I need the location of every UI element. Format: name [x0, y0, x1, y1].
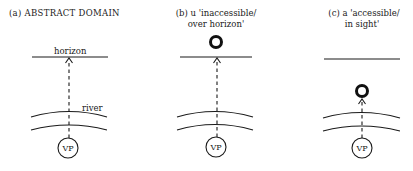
- figure-canvas: (a) ABSTRACT DOMAIN horizon river VP (b)…: [0, 0, 413, 171]
- viewpoint-label: VP: [61, 144, 74, 153]
- viewpoint-label: VP: [209, 143, 222, 152]
- arrowhead-icon: [66, 58, 73, 63]
- panel-c: (c) a 'accessible/ in sight' VP: [323, 8, 400, 158]
- viewpoint-label: VP: [355, 144, 368, 153]
- horizon-label: horizon: [54, 46, 87, 56]
- object-ring-icon: [211, 37, 222, 48]
- panel-c-title-line1: (c) a 'accessible/: [328, 8, 399, 18]
- object-ring-icon: [357, 86, 368, 97]
- panel-c-title-line2: in sight': [345, 19, 380, 29]
- river-bank-lower: [177, 125, 253, 131]
- river-label: river: [82, 103, 104, 113]
- panel-b-title-line2: over horizon': [188, 19, 245, 29]
- panel-a-title: (a) ABSTRACT DOMAIN: [9, 8, 120, 18]
- panel-b-title-line1: (b) u 'inaccessible/: [176, 8, 257, 18]
- panel-b: (b) u 'inaccessible/ over horizon' VP: [176, 8, 257, 157]
- river-bank-upper: [177, 112, 253, 118]
- panel-a: (a) ABSTRACT DOMAIN horizon river VP: [9, 8, 120, 158]
